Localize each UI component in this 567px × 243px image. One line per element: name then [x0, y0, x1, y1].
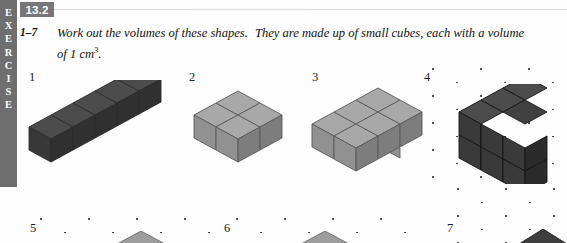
tab-letter: E — [5, 32, 12, 45]
shape-number-6: 6 — [224, 221, 230, 236]
grid-dot — [284, 218, 286, 220]
grid-dot — [480, 68, 482, 70]
grid-dot — [432, 95, 434, 97]
tab-letter: I — [6, 72, 10, 85]
shape-7-cubes — [518, 229, 567, 243]
worksheet-page: E X E R C I S E 13.2 1–7 Work out the vo… — [0, 0, 567, 243]
tab-letter: E — [5, 6, 12, 19]
grid-dot — [332, 218, 334, 220]
instruction-unit-prefix: of 1 cm — [57, 47, 94, 61]
grid-dot — [40, 218, 42, 220]
grid-dot — [64, 232, 66, 234]
grid-dot — [88, 218, 90, 220]
grid-dot — [505, 215, 507, 217]
instruction-unit-suffix: . — [98, 47, 101, 61]
grid-dot — [432, 149, 434, 151]
question-range-label: 1–7 — [20, 26, 37, 38]
grid-dot — [184, 218, 186, 220]
grid-dot — [481, 202, 483, 204]
shape-5-cubes — [116, 231, 166, 243]
grid-dot — [553, 188, 555, 190]
shape-4-cubes — [455, 84, 567, 184]
instruction-sentence-2: They are made up of small cubes, each wi… — [255, 26, 524, 40]
grid-dot — [529, 202, 531, 204]
grid-dot — [504, 82, 506, 84]
grid-dot — [112, 232, 114, 234]
grid-dot — [208, 232, 210, 234]
tab-letter: X — [5, 19, 13, 32]
grid-dot — [505, 188, 507, 190]
shape-6-cubes — [300, 231, 350, 243]
grid-dot — [432, 122, 434, 124]
grid-dot — [356, 232, 358, 234]
grid-dot — [528, 68, 530, 70]
exercise-number-badge: 13.2 — [20, 2, 54, 17]
grid-dot — [380, 218, 382, 220]
shape-number-7: 7 — [447, 221, 453, 236]
grid-dot — [456, 82, 458, 84]
shape-2-cubes — [186, 82, 306, 172]
tab-letter: S — [6, 85, 12, 98]
grid-dot — [236, 218, 238, 220]
tab-letter: C — [5, 59, 13, 72]
page-top-rule-highlight — [190, 8, 310, 11]
grid-dot — [457, 215, 459, 217]
grid-dot — [432, 68, 434, 70]
grid-dot — [136, 218, 138, 220]
grid-dot — [260, 232, 262, 234]
shape-1-cubes — [20, 80, 170, 170]
shape-3-cubes — [300, 82, 430, 177]
tab-letter: R — [5, 46, 13, 59]
instruction-sentence-1: Work out the volumes of these shapes. — [57, 26, 248, 40]
exercise-side-tab: E X E R C I S E — [0, 0, 17, 187]
grid-dot — [457, 188, 459, 190]
grid-dot — [553, 215, 555, 217]
grid-dot — [404, 232, 406, 234]
grid-dot — [432, 176, 434, 178]
instruction-text: Work out the volumes of these shapes.The… — [57, 25, 562, 62]
grid-dot — [552, 82, 554, 84]
grid-dot — [481, 229, 483, 231]
shape-number-5: 5 — [30, 221, 36, 236]
tab-letter: E — [5, 98, 12, 111]
